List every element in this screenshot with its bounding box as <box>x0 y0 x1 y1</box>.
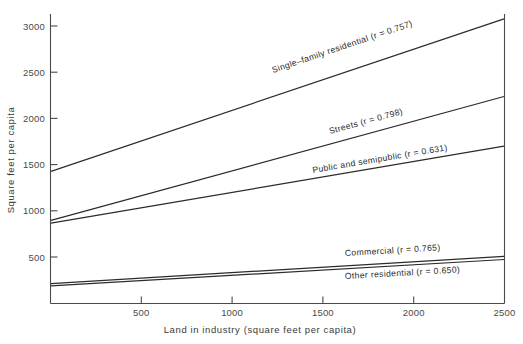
y-tick-label-2500: 2500 <box>23 67 45 78</box>
x-axis-title: Land in industry (square feet per capita… <box>164 324 357 335</box>
x-tick-label-500: 500 <box>133 307 149 318</box>
y-tick-label-1000: 1000 <box>23 205 45 216</box>
y-tick-label-500: 500 <box>29 252 45 263</box>
x-tick-group <box>141 297 413 304</box>
series-label-other-residential: Other residential (r = 0.650) <box>345 264 461 281</box>
x-tick-label-1000: 1000 <box>221 307 243 318</box>
y-axis-title: Square feet per capita <box>5 107 16 214</box>
series-label-single-family-residential: Single–family residential (r = 0.757) <box>270 18 413 75</box>
y-tick-labels: 3000 2500 2000 1500 1000 500 <box>23 21 45 263</box>
y-tick-label-3000: 3000 <box>23 21 45 32</box>
series-line-public-and-semipublic <box>51 146 504 223</box>
series-labels-group: Single–family residential (r = 0.757) St… <box>270 18 460 281</box>
series-label-streets: Streets (r = 0.798) <box>328 106 404 136</box>
chart-figure: 3000 2500 2000 1500 1000 500 500 1000 15… <box>0 0 523 344</box>
x-tick-labels: 500 1000 1500 2000 2500 <box>133 307 515 318</box>
y-tick-label-2000: 2000 <box>23 113 45 124</box>
line-chart-plot: 3000 2500 2000 1500 1000 500 500 1000 15… <box>0 0 523 344</box>
series-line-streets <box>51 97 504 221</box>
x-tick-label-2000: 2000 <box>403 307 425 318</box>
y-tick-label-1500: 1500 <box>23 159 45 170</box>
series-label-commercial: Commercial (r = 0.765) <box>345 242 441 258</box>
x-tick-label-2500: 2500 <box>494 307 516 318</box>
x-tick-label-1500: 1500 <box>312 307 334 318</box>
